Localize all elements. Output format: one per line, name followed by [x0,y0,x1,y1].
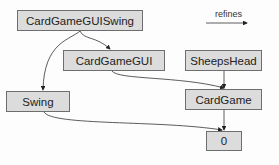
node-swing[interactable]: Swing [6,91,70,112]
node-sheepshead[interactable]: SheepsHead [185,50,262,71]
diagram-canvas: refines CardGameGUISwing CardGameGUI She… [0,0,279,165]
node-cardgame[interactable]: CardGame [185,89,262,110]
node-zero[interactable]: 0 [206,131,242,151]
node-cardgameguiswing[interactable]: CardGameGUISwing [17,10,143,31]
node-cardgamegui[interactable]: CardGameGUI [63,50,165,71]
edge-swing-to-zero [44,112,222,130]
edge-cardgamegui-to-cardgame [112,71,224,88]
legend-label: refines [215,9,242,19]
edge-cardgameguiswing-to-cardgamegui [80,31,110,49]
